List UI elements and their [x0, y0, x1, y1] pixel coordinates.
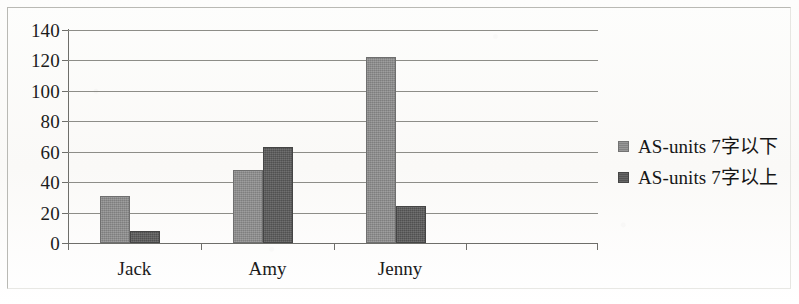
- plot-area: [68, 30, 598, 243]
- y-axis-tick-labels: 140 120 100 80 60 40 20 0: [8, 0, 60, 304]
- gridline-40: [68, 182, 598, 183]
- x-tick-mark-0: [68, 243, 69, 250]
- gridline-20: [68, 213, 598, 214]
- chart-figure: 140 120 100 80 60 40 20 0: [0, 0, 799, 304]
- legend-swatch-icon-light: [618, 141, 629, 152]
- x-category-label-jack: Jack: [68, 258, 201, 280]
- bar-amy-as-units-above-7: [263, 147, 293, 243]
- y-tick-label-40: 40: [16, 173, 60, 192]
- legend-swatch-icon-dark: [618, 172, 629, 183]
- y-tick-label-60: 60: [16, 143, 60, 162]
- x-category-label-amy: Amy: [201, 258, 334, 280]
- x-tick-mark-3: [466, 243, 467, 250]
- y-tick-label-120: 120: [16, 51, 60, 70]
- y-tick-label-0: 0: [16, 234, 60, 253]
- x-axis-line: [68, 243, 598, 244]
- y-tick-label-80: 80: [16, 112, 60, 131]
- gridline-140: [68, 30, 598, 31]
- gridline-100: [68, 91, 598, 92]
- bar-amy-as-units-below-7: [233, 170, 263, 243]
- chart-legend: AS-units 7字以下 AS-units 7字以上: [618, 131, 796, 193]
- legend-label-as-units-below-7: AS-units 7字以下: [638, 136, 778, 157]
- legend-label-as-units-above-7: AS-units 7字以上: [638, 167, 778, 188]
- y-tick-label-100: 100: [16, 82, 60, 101]
- y-tick-label-140: 140: [16, 21, 60, 40]
- bar-jenny-as-units-below-7: [366, 57, 396, 243]
- x-tick-mark-1: [201, 243, 202, 250]
- x-tick-mark-4: [597, 243, 598, 250]
- bar-jack-as-units-below-7: [100, 196, 130, 243]
- bar-jenny-as-units-above-7: [396, 206, 426, 243]
- gridline-80: [68, 121, 598, 122]
- x-category-label-jenny: Jenny: [334, 258, 466, 280]
- bar-jack-as-units-above-7: [130, 231, 160, 243]
- x-tick-mark-2: [334, 243, 335, 250]
- legend-item-as-units-above-7: AS-units 7字以上: [618, 162, 796, 193]
- gridline-60: [68, 152, 598, 153]
- y-tick-label-20: 20: [16, 204, 60, 223]
- legend-item-as-units-below-7: AS-units 7字以下: [618, 131, 796, 162]
- gridline-120: [68, 60, 598, 61]
